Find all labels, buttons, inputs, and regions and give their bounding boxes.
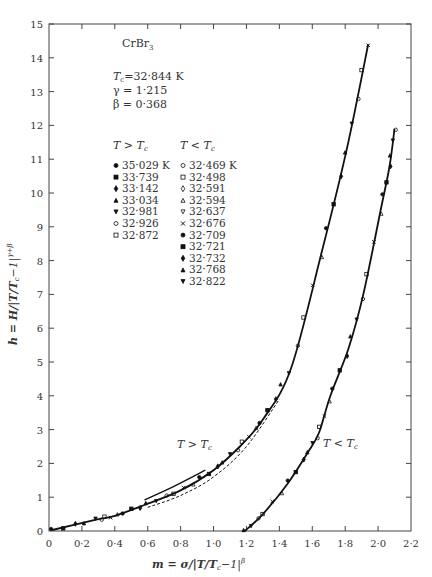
x-tick-label: 1·4	[271, 538, 287, 549]
x-tick-label: 0·2	[74, 538, 90, 549]
x-tick-label: 0	[46, 538, 52, 549]
legend-label: 32·709	[189, 229, 226, 241]
gamma-value: γ = 1·215	[113, 84, 167, 97]
filled-triangle-down-marker-icon	[114, 210, 118, 214]
x-tick-label: 0·6	[140, 538, 156, 549]
legend-label: 32·469 K	[189, 159, 237, 171]
legend-label: 32·591	[189, 182, 226, 194]
x-tick-label: 0·4	[107, 538, 123, 549]
x-axis-label: m = σ/|T/Tc−1|β	[152, 557, 245, 572]
x-tick-label: 1·2	[239, 538, 255, 549]
filled-triangle-down-marker-icon	[181, 280, 185, 284]
y-tick-label: 6	[37, 323, 43, 334]
open-square-marker-icon	[181, 175, 185, 179]
y-tick-label: 15	[30, 19, 43, 30]
legend-below: 32·469 K32·49832·59132·59432·63732·67632…	[181, 159, 237, 287]
y-tick-label: 13	[30, 87, 43, 98]
legend-item: 35·029 K	[114, 159, 170, 171]
legend-item: 32·872	[114, 229, 159, 241]
legend-label: 32·981	[122, 205, 159, 217]
legend-item: 33·739	[114, 171, 159, 183]
legend-item: 32·721	[181, 240, 226, 252]
open-triangle-down-marker-icon	[181, 210, 185, 214]
legend-label: 32·498	[189, 171, 226, 183]
legend-item: 32·926	[114, 217, 159, 229]
legend-header-above: T > Tc	[113, 139, 148, 153]
legend-item: 33·142	[114, 182, 159, 194]
annotation-below-tc: T < Tc	[323, 437, 358, 451]
compound-label: CrBr3	[122, 37, 154, 52]
legend-item: 32·768	[181, 263, 226, 275]
data-points	[49, 44, 397, 532]
x-tick-labels: 00·20·40·60·81·01·21·41·61·82·02·2	[46, 538, 419, 549]
open-triangle-up-marker-icon	[181, 198, 185, 202]
y-tick-label: 11	[30, 154, 43, 165]
filled-triangle-up-marker-icon	[181, 268, 185, 272]
annotation-above-tc: T > Tc	[177, 438, 212, 452]
legend-header-below: T < Tc	[180, 139, 215, 153]
legend-item: 32·676	[181, 217, 226, 229]
y-tick-label: 9	[37, 222, 43, 233]
legend-label: 33·739	[122, 171, 159, 183]
legend-label: 32·926	[122, 217, 159, 229]
legend-label: 33·034	[122, 194, 159, 206]
legend-label: 32·822	[189, 275, 226, 287]
legend-item: 32·981	[114, 205, 159, 217]
legend-label: 32·594	[189, 194, 226, 206]
legend-label: 32·872	[122, 229, 159, 241]
open-circle-marker-icon	[114, 222, 118, 226]
y-tick-label: 14	[30, 53, 43, 64]
dashed-line	[148, 399, 280, 507]
y-axis	[49, 24, 411, 497]
x-tick-label: 2·0	[370, 538, 386, 549]
x-tick-label: 2·2	[403, 538, 419, 549]
y-tick-label: 5	[37, 357, 43, 368]
curve-below-tc	[245, 129, 395, 531]
y-tick-label: 12	[30, 120, 43, 131]
filled-diamond-marker-icon	[114, 186, 118, 192]
legend-item: 32·469 K	[181, 159, 237, 171]
legend-label: 33·142	[122, 182, 159, 194]
legend-label: 32·676	[189, 217, 226, 229]
y-tick-label: 4	[37, 391, 43, 402]
y-tick-label: 3	[37, 425, 43, 436]
filled-triangle-up-marker-icon	[114, 198, 118, 202]
chart: 0123456789101112131415 00·20·40·60·81·01…	[0, 0, 432, 577]
legend-label: 35·029 K	[122, 159, 170, 171]
y-tick-label: 10	[30, 188, 43, 199]
legend-item: 32·498	[181, 171, 226, 183]
open-diamond-marker-icon	[181, 186, 185, 192]
y-axis-label: h = H/|T/Tc−1|γ+β	[6, 243, 21, 345]
y-tick-label: 0	[37, 526, 43, 537]
x-tick-label: 1·0	[206, 538, 222, 549]
y-tick-label: 1	[37, 492, 43, 503]
tc-value: Tc=32·844 K	[113, 70, 184, 84]
legend-item: 32·732	[181, 252, 226, 264]
beta-value: β = 0·368	[113, 98, 167, 111]
y-tick-labels: 0123456789101112131415	[30, 19, 43, 537]
y-tick-label: 2	[37, 458, 43, 469]
legend-above: 35·029 K33·73933·14233·03432·98132·92632…	[114, 159, 170, 241]
legend-item: 32·637	[181, 205, 226, 217]
filled-diamond-marker-icon	[181, 255, 185, 261]
cross-marker-icon	[181, 222, 185, 226]
legend-label: 32·768	[189, 263, 226, 275]
y-tick-label: 7	[37, 289, 43, 300]
open-square-marker-icon	[114, 233, 118, 237]
filled-square-marker-icon	[114, 175, 118, 179]
legend-item: 32·591	[181, 182, 226, 194]
filled-square-marker-icon	[181, 245, 185, 249]
x-tick-label: 0·8	[173, 538, 189, 549]
x-tick-label: 1·6	[304, 538, 320, 549]
x-tick-label: 1·8	[337, 538, 353, 549]
filled-circle-marker-icon	[114, 164, 118, 168]
legend-item: 33·034	[114, 194, 159, 206]
curve-above-tc	[52, 44, 368, 530]
legend-item: 32·594	[181, 194, 226, 206]
legend-label: 32·721	[189, 240, 226, 252]
legend-item: 32·822	[181, 275, 226, 287]
legend-item: 32·709	[181, 229, 226, 241]
filled-circle-marker-icon	[181, 233, 185, 237]
y-tick-label: 8	[37, 256, 43, 267]
legend-label: 32·732	[189, 252, 226, 264]
